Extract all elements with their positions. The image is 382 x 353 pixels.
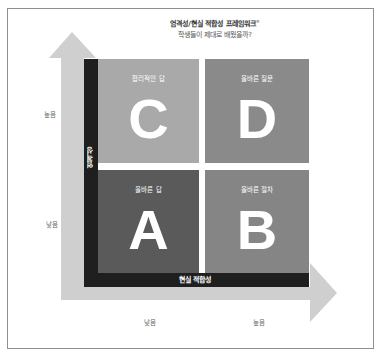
quadrant-a-letter: A — [98, 198, 199, 262]
x-axis-low-label: 낮음 — [144, 317, 156, 327]
y-axis-low-label: 낮음 — [46, 219, 58, 229]
y-axis-high-label: 높음 — [44, 109, 56, 119]
y-axis-label: 엄격성 — [84, 138, 98, 178]
quadrant-a-label: 올바른 답 — [98, 184, 199, 194]
quadrant-b: 올바른 절차 B — [205, 170, 309, 273]
x-axis-high-label: 높음 — [253, 317, 265, 327]
quadrant-d-letter: D — [205, 87, 309, 151]
quadrant-c-label: 합리적인 답 — [98, 73, 199, 83]
quadrant-a: 올바른 답 A — [98, 170, 199, 273]
quadrant-d: 올바른 질문 D — [205, 59, 309, 163]
quadrant-b-letter: B — [205, 198, 309, 262]
quadrant-c: 합리적인 답 C — [98, 59, 199, 163]
quadrant-b-label: 올바른 절차 — [205, 184, 309, 194]
quadrant-c-letter: C — [98, 87, 199, 151]
quadrant-d-label: 올바른 질문 — [205, 73, 309, 83]
x-axis-label: 현실 적합성 — [140, 273, 250, 287]
